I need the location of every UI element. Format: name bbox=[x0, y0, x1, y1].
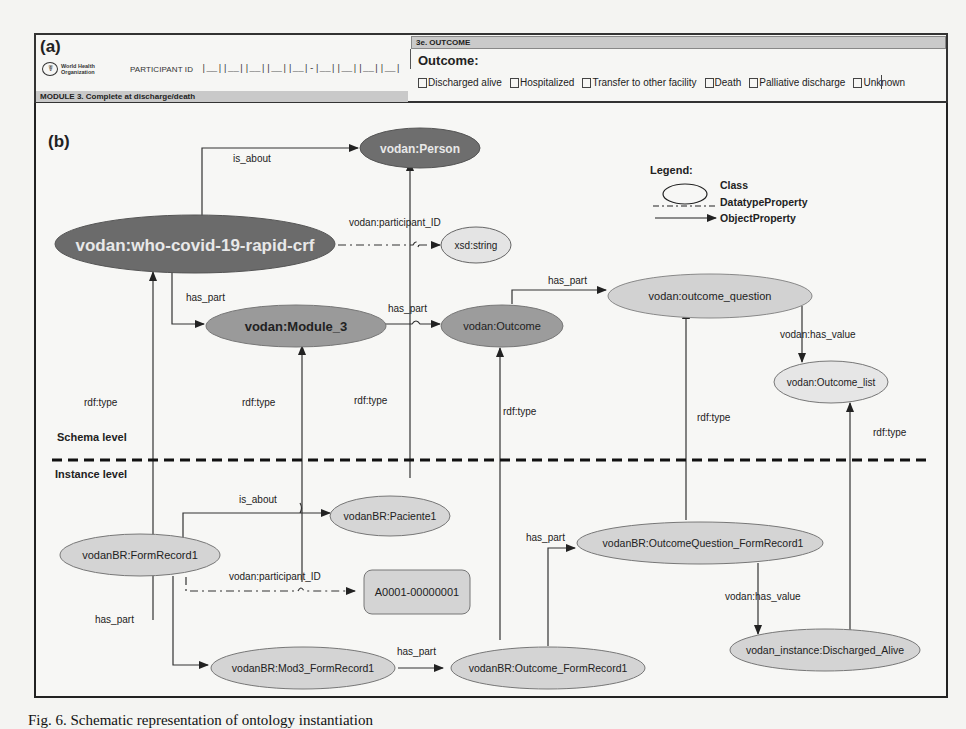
node-outcomequestion-formrecord1[interactable]: vodanBR:OutcomeQuestion_FormRecord1 bbox=[577, 522, 823, 564]
edge-has-part-outcome-fr-oq bbox=[548, 548, 575, 646]
svg-text:vodanBR:OutcomeQuestion_FormRe: vodanBR:OutcomeQuestion_FormRecord1 bbox=[603, 537, 804, 549]
svg-text:vodan:who-covid-19-rapid-crf: vodan:who-covid-19-rapid-crf bbox=[76, 236, 315, 255]
edge-has-part-outcome-question bbox=[512, 290, 606, 304]
svg-text:vodanBR:Paciente1: vodanBR:Paciente1 bbox=[344, 510, 437, 522]
label-has-part-outcome-question: has_part bbox=[548, 275, 587, 286]
node-outcome-list[interactable]: vodan:Outcome_list bbox=[774, 361, 888, 403]
node-mod3-formrecord1[interactable]: vodanBR:Mod3_FormRecord1 bbox=[211, 647, 395, 689]
node-outcome-question[interactable]: vodan:outcome_question bbox=[608, 274, 812, 318]
node-module-3[interactable]: vodan:Module_3 bbox=[206, 305, 386, 347]
label-rdf-type-2: rdf:type bbox=[242, 397, 276, 408]
edge-has-part-module-outcome bbox=[385, 321, 440, 324]
svg-text:vodan_instance:Discharged_Aliv: vodan_instance:Discharged_Alive bbox=[746, 644, 904, 656]
legend-class-icon bbox=[663, 184, 707, 204]
edge-participant-id-schema bbox=[338, 242, 440, 248]
label-has-part-crf-module: has_part bbox=[186, 292, 225, 303]
label-rdf-type-6: rdf:type bbox=[873, 427, 907, 438]
figure-caption: Fig. 6. Schematic representation of onto… bbox=[28, 712, 373, 729]
legend: Legend: Class DatatypeProperty ObjectPro… bbox=[650, 164, 808, 224]
edge-has-part-fr-mod3 bbox=[173, 576, 208, 665]
svg-text:A0001-00000001: A0001-00000001 bbox=[375, 586, 459, 598]
label-has-value-schema: vodan:has_value bbox=[780, 329, 856, 340]
node-crf[interactable]: vodan:who-covid-19-rapid-crf bbox=[55, 215, 335, 273]
svg-text:vodan:outcome_question: vodan:outcome_question bbox=[649, 290, 772, 302]
node-person[interactable]: vodan:Person bbox=[360, 128, 480, 168]
label-has-part-mod3-outcome-fr: has_part bbox=[397, 646, 436, 657]
legend-datatype: DatatypeProperty bbox=[720, 196, 808, 208]
svg-text:vodan:Person: vodan:Person bbox=[380, 142, 460, 156]
node-discharged-alive[interactable]: vodan_instance:Discharged_Alive bbox=[730, 629, 920, 671]
label-rdf-type-3: rdf:type bbox=[354, 395, 388, 406]
label-rdf-type-1: rdf:type bbox=[84, 397, 118, 408]
label-has-part-outcome-fr-oq: has_part bbox=[526, 532, 565, 543]
node-outcome-formrecord1[interactable]: vodanBR:Outcome_FormRecord1 bbox=[451, 647, 645, 689]
label-is-about-instance: is_about bbox=[239, 494, 277, 505]
node-paciente1[interactable]: vodanBR:Paciente1 bbox=[330, 496, 450, 536]
svg-text:vodanBR:FormRecord1: vodanBR:FormRecord1 bbox=[82, 549, 198, 561]
label-participant-id-instance: vodan:participant_ID bbox=[229, 571, 321, 582]
label-has-part-module-outcome: has_part bbox=[388, 303, 427, 314]
label-rdf-type-4: rdf:type bbox=[503, 406, 537, 417]
node-formrecord1[interactable]: vodanBR:FormRecord1 bbox=[60, 534, 220, 576]
label-rdf-type-5: rdf:type bbox=[697, 412, 731, 423]
legend-object: ObjectProperty bbox=[720, 212, 796, 224]
legend-class: Class bbox=[720, 179, 748, 191]
instance-level-label: Instance level bbox=[55, 468, 127, 480]
schema-level-label: Schema level bbox=[57, 431, 127, 443]
legend-title: Legend: bbox=[650, 164, 693, 176]
svg-text:vodanBR:Outcome_FormRecord1: vodanBR:Outcome_FormRecord1 bbox=[469, 662, 628, 674]
label-has-part-fr-mod3: has_part bbox=[95, 614, 134, 625]
node-xsd-string[interactable]: xsd:string bbox=[441, 227, 511, 263]
svg-text:vodan:Outcome_list: vodan:Outcome_list bbox=[787, 377, 876, 388]
label-is-about-schema: is_about bbox=[233, 153, 271, 164]
svg-text:xsd:string: xsd:string bbox=[455, 240, 498, 251]
svg-text:vodan:Outcome: vodan:Outcome bbox=[463, 320, 541, 332]
node-outcome[interactable]: vodan:Outcome bbox=[441, 305, 563, 347]
label-has-value-instance: vodan:has_value bbox=[725, 591, 801, 602]
svg-text:vodanBR:Mod3_FormRecord1: vodanBR:Mod3_FormRecord1 bbox=[232, 662, 375, 674]
edge-is-about-schema bbox=[202, 148, 358, 216]
svg-text:vodan:Module_3: vodan:Module_3 bbox=[245, 319, 348, 334]
node-literal-id[interactable]: A0001-00000001 bbox=[364, 570, 470, 614]
label-participant-id-schema: vodan:participant_ID bbox=[349, 217, 441, 228]
